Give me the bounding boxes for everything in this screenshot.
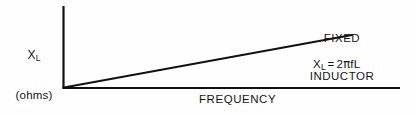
y-axis-label: XL (ohms) xyxy=(8,23,60,115)
equation-subscript: L xyxy=(321,62,326,72)
equation-symbol: X xyxy=(313,58,321,70)
y-axis-symbol-text: X xyxy=(28,48,36,62)
curve-annotation-line2: INDUCTOR xyxy=(296,70,388,83)
equation-operator: = xyxy=(326,58,337,70)
y-axis-units: (ohms) xyxy=(8,89,60,102)
inductive-reactance-figure: XL (ohms) FREQUENCY FIXED INDUCTOR XL=2π… xyxy=(0,0,416,115)
curve-annotation-line1: FIXED xyxy=(296,32,388,45)
y-axis-subscript: L xyxy=(36,52,41,62)
y-axis-symbol: XL xyxy=(8,49,60,63)
equation-variable-l: L xyxy=(354,58,361,70)
x-axis-label: FREQUENCY xyxy=(199,93,276,106)
reactance-equation: XL=2πfL xyxy=(313,58,360,72)
